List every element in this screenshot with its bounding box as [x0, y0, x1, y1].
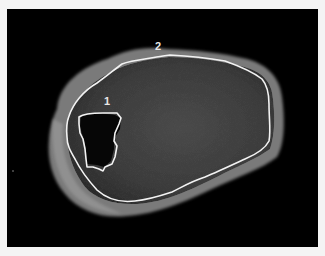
- scan-image-frame: 2 1: [7, 9, 318, 247]
- roi-2-label: 2: [155, 41, 161, 52]
- speck: [12, 170, 14, 172]
- roi-1-label: 1: [104, 96, 110, 107]
- scan-image: [7, 9, 318, 247]
